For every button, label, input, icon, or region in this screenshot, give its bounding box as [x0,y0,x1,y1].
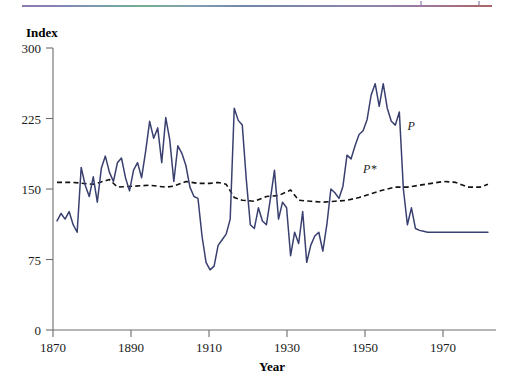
x-tick-label-1870: 1870 [40,340,66,355]
series-annotation-p: P [406,119,415,133]
x-tick-label-1930: 1930 [274,340,300,355]
line-chart-svg: 300 225 150 75 0 1870 1890 1910 1930 195… [0,0,514,383]
y-axis-title: Index [26,25,58,40]
x-tick-label-1890: 1890 [118,340,144,355]
x-axis-title: Year [259,359,285,374]
x-axis-ticks [53,330,443,337]
y-tick-label-300: 300 [22,41,42,56]
series-annotation-pstar: P* [362,162,376,176]
y-axis-ticks [46,48,53,330]
y-tick-label-0: 0 [35,323,42,338]
x-tick-label-1970: 1970 [430,340,456,355]
y-tick-label-225: 225 [22,112,42,127]
chart-figure: 300 225 150 75 0 1870 1890 1910 1930 195… [0,0,514,383]
y-tick-label-75: 75 [28,253,41,268]
x-tick-label-1910: 1910 [196,340,222,355]
y-tick-label-150: 150 [22,182,42,197]
x-tick-label-1950: 1950 [352,340,378,355]
series-line-p [57,84,488,270]
